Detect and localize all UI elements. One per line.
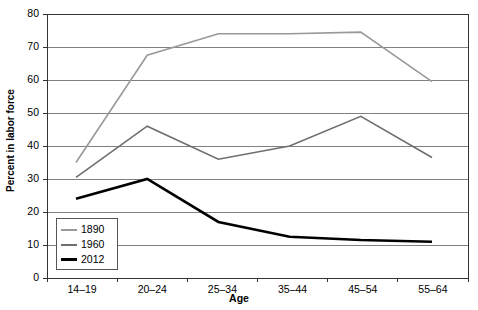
legend: 189019602012 [56,218,118,270]
legend-label: 2012 [81,254,104,265]
legend-swatch-1960 [61,244,77,246]
line-chart: Percent in labor force 01020304050607080… [0,0,478,310]
data-series-group [76,32,432,242]
series-line-1890 [76,32,432,162]
legend-swatch-2012 [61,258,77,261]
x-axis-ticks [47,278,468,282]
legend-item: 2012 [57,252,117,267]
legend-item: 1890 [57,222,117,237]
legend-label: 1960 [81,239,104,250]
series-line-1960 [76,116,432,177]
y-axis-ticks [43,14,47,278]
x-axis-title: Age [0,292,478,304]
series-line-2012 [76,179,432,242]
legend-item: 1960 [57,237,117,252]
legend-label: 1890 [81,224,104,235]
legend-swatch-1890 [61,229,77,231]
